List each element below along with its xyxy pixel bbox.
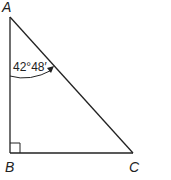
right-triangle-diagram: 42°48′ A B C xyxy=(0,0,171,180)
vertex-label-a: A xyxy=(1,0,11,15)
triangle xyxy=(10,17,133,153)
angle-label: 42°48′ xyxy=(13,60,47,74)
right-angle-marker xyxy=(10,143,20,153)
vertex-label-b: B xyxy=(5,159,14,175)
side-ac-hypotenuse xyxy=(10,17,133,153)
vertex-label-c: C xyxy=(129,159,140,175)
